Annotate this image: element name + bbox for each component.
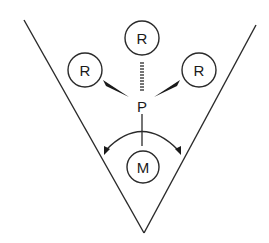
cone-left-edge	[24, 20, 144, 233]
metal-label: M	[137, 159, 150, 176]
solid-wedge-bond-left	[103, 80, 129, 97]
substituent-r-right: R	[182, 53, 216, 87]
solid-wedge-bond-right	[154, 80, 180, 97]
substituent-r-top: R	[125, 21, 159, 55]
hashed-wedge-bond	[140, 63, 144, 90]
r-right-label: R	[194, 62, 205, 79]
metal-center: M	[127, 151, 159, 183]
cone-outline	[24, 20, 256, 233]
r-top-label: R	[137, 30, 148, 47]
substituent-r-left: R	[68, 53, 102, 87]
cone-right-edge	[144, 25, 256, 233]
phosphorus-atom-label: P	[137, 98, 147, 115]
phosphine-cone-angle-diagram: R R R P M	[0, 0, 269, 243]
r-left-label: R	[80, 62, 91, 79]
